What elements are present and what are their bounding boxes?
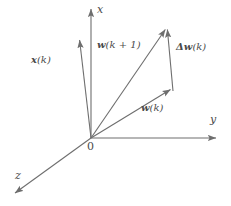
vector-xk [80,40,91,138]
axis-z [15,138,91,193]
vector-label-xk-arg: (k) [37,54,51,65]
vector-label-delta-wk-symbol: Δw [176,41,192,52]
vector-label-wk1-arg: (k + 1) [106,39,141,50]
axis-label-x: x [97,4,103,15]
vector-label-wk-symbol: w [141,102,150,113]
vector-label-wk1-symbol: w [97,39,106,50]
vector-diagram-figure: x y z x(k) w(k + 1) w(k) Δw(k) 0 [0,0,231,206]
diagram-canvas [0,0,231,206]
axis-z-line [15,138,91,193]
vector-label-delta-wk: Δw(k) [176,42,206,52]
origin-label: 0 [87,141,94,152]
vector-delta-wk [167,30,173,92]
vector-label-wk: w(k) [141,103,163,113]
vector-delta-wk-line [167,30,173,92]
vector-xk-line [80,40,91,138]
vector-label-delta-wk-arg: (k) [192,41,206,52]
vector-wk-line [91,90,171,139]
vector-label-xk: x(k) [31,55,51,65]
axis-label-z: z [15,170,21,181]
vector-label-wk-arg: (k) [150,102,164,113]
vector-label-wk1: w(k + 1) [97,40,141,50]
axis-label-y: y [210,114,216,125]
vector-wk [91,90,171,139]
